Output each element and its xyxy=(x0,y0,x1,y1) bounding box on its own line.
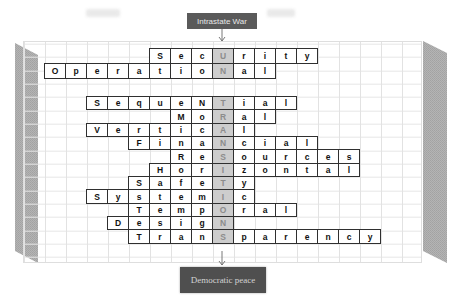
arrow-down-icon xyxy=(219,29,225,41)
diagram-canvas: Intrastate War S e c U r i t y O p e r a… xyxy=(0,0,458,304)
arrows xyxy=(0,0,458,304)
bottom-label-democratic-peace: Democratic peace xyxy=(180,267,266,293)
arrow-down-icon xyxy=(219,251,225,265)
bottom-label-text: Democratic peace xyxy=(191,275,256,285)
